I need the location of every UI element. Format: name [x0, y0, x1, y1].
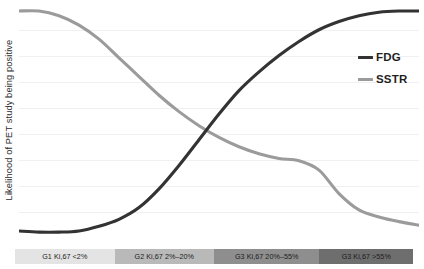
- legend-swatch-icon-sstr: [358, 78, 373, 81]
- plot-area: [19, 4, 419, 238]
- legend-label-sstr: SSTR: [376, 73, 407, 85]
- category-segment-g3b: G3 Ki,67 >55%: [319, 249, 413, 264]
- legend-swatch-icon-fdg: [358, 56, 373, 59]
- legend-label-fdg: FDG: [376, 51, 401, 63]
- legend-item-fdg: FDG: [358, 46, 422, 68]
- x-axis-category-band: G1 Ki,67 <2% G2 Ki,67 2%–20% G3 Ki,67 20…: [15, 249, 413, 264]
- category-label-g1: G1 Ki,67 <2%: [42, 252, 87, 261]
- chart-svg: [19, 4, 419, 238]
- category-segment-g1: G1 Ki,67 <2%: [15, 249, 115, 264]
- category-segment-g3a: G3 Ki,67 20%–55%: [214, 249, 319, 264]
- series-line-fdg: [19, 11, 419, 232]
- category-label-g3b: G3 Ki,67 >55%: [342, 252, 391, 261]
- chart-figure: Likelihood of PET study being positive F…: [0, 0, 424, 269]
- chart-legend: FDG SSTR: [358, 46, 422, 90]
- category-label-g2: G2 Ki,67 2%–20%: [135, 252, 195, 261]
- series-line-sstr: [19, 11, 419, 225]
- y-axis-label: Likelihood of PET study being positive: [4, 40, 14, 201]
- category-label-g3a: G3 Ki,67 20%–55%: [235, 252, 299, 261]
- legend-item-sstr: SSTR: [358, 68, 422, 90]
- category-segment-g2: G2 Ki,67 2%–20%: [115, 249, 215, 264]
- y-axis-label-container: Likelihood of PET study being positive: [0, 0, 18, 240]
